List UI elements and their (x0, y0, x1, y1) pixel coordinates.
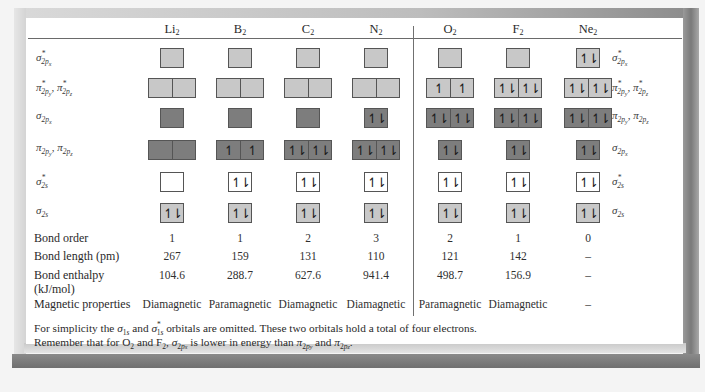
orbital-box: ↿⇂ (228, 172, 252, 192)
footnote-line-2: Remember that for O2 and F2, σ2px is low… (34, 336, 353, 351)
orbital-box: ↿⇂ (576, 140, 600, 160)
orbital-box: ↿⇂ (506, 140, 530, 160)
electron-arrows-icon: ↿⇂ (577, 141, 599, 159)
electron-arrows-icon: ↿⇂ (577, 173, 599, 191)
empty-orbital (308, 79, 332, 97)
column-header-n2: N2 (346, 22, 406, 37)
orbital-box: ↿⇂↿⇂ (564, 78, 612, 98)
property-value: 941.4 (336, 269, 416, 281)
column-header-f2: F2 (488, 22, 548, 37)
electron-arrows-icon: ↿⇂ (427, 109, 450, 127)
orbital-box (352, 78, 400, 98)
property-value: Diamagnetic (336, 298, 416, 310)
orbital-box: ↿⇂ (576, 203, 600, 223)
empty-orbital (376, 79, 400, 97)
orbital-box: ↿⇂ (438, 140, 462, 160)
orbital-box (160, 48, 184, 68)
molecule-symbol: B (234, 22, 242, 36)
orbital-label-left: σ*2s (36, 173, 48, 190)
electron-arrows-icon: ↿⇂ (297, 204, 319, 222)
orbital-box: ↿⇂↿⇂ (494, 108, 542, 128)
orbital-label-left: π*2py, π*2pz (36, 79, 72, 97)
orbital-box: ↿⇂ (506, 203, 530, 223)
orbital-label-left: σ2s (36, 204, 48, 219)
empty-orbital (149, 141, 172, 159)
property-label: Bond order (34, 231, 88, 246)
electron-arrows-icon: ↿⇂ (495, 109, 518, 127)
orbital-box: ↿⇂ (438, 203, 462, 223)
empty-orbital (161, 173, 183, 191)
orbital-box (148, 78, 196, 98)
frame-left (14, 8, 26, 358)
orbital-box (438, 48, 462, 68)
empty-orbital (353, 79, 376, 97)
orbital-box: ↿⇂↿⇂ (352, 140, 400, 160)
electron-arrows-icon: ↿ (427, 79, 450, 97)
empty-orbital (217, 79, 240, 97)
orbital-box (228, 108, 252, 128)
orbital-box: ↿⇂ (364, 172, 388, 192)
property-value: 142 (478, 250, 558, 262)
electron-arrows-icon: ↿⇂ (507, 204, 529, 222)
orbital-box (216, 78, 264, 98)
electron-arrows-icon: ↿⇂ (297, 173, 319, 191)
electron-arrows-icon: ↿⇂ (450, 109, 474, 127)
orbital-label-left: σ*2px (36, 49, 51, 67)
orbital-box (160, 108, 184, 128)
orbital-box: ↿⇂ (506, 172, 530, 192)
empty-orbital (507, 49, 529, 67)
orbital-box: ↿⇂ (364, 108, 388, 128)
electron-arrows-icon: ↿⇂ (518, 79, 542, 97)
property-label: Bond length (pm) (34, 249, 119, 264)
electron-arrows-icon: ↿⇂ (577, 49, 599, 67)
electron-arrows-icon: ↿⇂ (365, 109, 387, 127)
orbital-box (228, 48, 252, 68)
empty-orbital (365, 49, 387, 67)
orbital-box: ↿⇂ (296, 203, 320, 223)
electron-arrows-icon: ↿⇂ (577, 204, 599, 222)
orbital-box: ↿⇂ (576, 48, 600, 68)
property-value: 3 (336, 232, 416, 244)
frame-right (683, 8, 699, 363)
column-header-o2: O2 (420, 22, 480, 37)
empty-orbital (229, 109, 251, 127)
orbital-box: ↿⇂ (364, 203, 388, 223)
empty-orbital (297, 49, 319, 67)
empty-orbital (172, 79, 196, 97)
electron-arrows-icon: ↿⇂ (365, 173, 387, 191)
property-label-unit: (kJ/mol) (34, 282, 75, 297)
property-value: – (548, 250, 628, 262)
electron-arrows-icon: ↿⇂ (507, 173, 529, 191)
orbital-box: ↿⇂↿⇂ (564, 108, 612, 128)
orbital-label-left: σ2px (36, 109, 52, 125)
electron-arrows-icon: ↿⇂ (308, 141, 332, 159)
electron-arrows-icon: ↿⇂ (439, 173, 461, 191)
footnote-line-1: For simplicity the σ1s and σ*1s orbitals… (34, 320, 477, 337)
orbital-label-left: π2py, π2pz (36, 141, 73, 157)
empty-orbital (172, 141, 196, 159)
empty-orbital (439, 49, 461, 67)
molecule-symbol: Ne (579, 22, 594, 36)
orbital-box (364, 48, 388, 68)
electron-arrows-icon: ↿⇂ (285, 141, 308, 159)
electron-arrows-icon: ↿⇂ (439, 141, 461, 159)
orbital-box: ↿⇂↿⇂ (284, 140, 332, 160)
electron-arrows-icon: ↿ (217, 141, 240, 159)
electron-arrows-icon: ↿ (240, 141, 264, 159)
property-label: Bond enthalpy (34, 268, 104, 283)
molecule-symbol: N (369, 22, 378, 36)
orbital-box: ↿⇂↿⇂ (494, 78, 542, 98)
property-value: 156.9 (478, 269, 558, 281)
orbital-box (148, 140, 196, 160)
orbital-label-right: σ2s (612, 204, 624, 219)
property-value: Diamagnetic (478, 298, 558, 310)
molecule-symbol: O (443, 22, 452, 36)
electron-arrows-icon: ↿⇂ (229, 204, 251, 222)
electron-arrows-icon: ↿⇂ (588, 109, 612, 127)
electron-arrows-icon: ↿⇂ (518, 109, 542, 127)
orbital-box (296, 108, 320, 128)
orbital-box: ↿↿ (426, 78, 474, 98)
orbital-box (160, 172, 184, 192)
orbital-label-right: σ2px (612, 141, 628, 157)
property-label: Magnetic properties (34, 297, 130, 312)
